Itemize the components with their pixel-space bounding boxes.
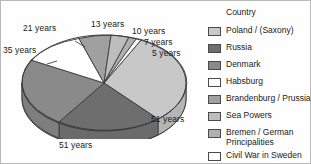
pie-label-51-years-poland: 51 years xyxy=(151,114,184,124)
pie-chart-area: 21 years 35 years 13 years 10 years 7 ye… xyxy=(1,1,206,164)
legend-label-denmark: Denmark xyxy=(226,60,260,70)
chart-frame: 21 years 35 years 13 years 10 years 7 ye… xyxy=(0,0,311,164)
legend-item-brandenburg-prussia[interactable]: Brandenburg / Prussia xyxy=(207,94,311,107)
legend-swatch-poland-saxony xyxy=(208,27,221,36)
legend-item-denmark[interactable]: Denmark xyxy=(207,60,311,73)
legend-label-russia: Russia xyxy=(226,43,252,53)
legend-title: Country xyxy=(226,7,256,17)
pie-label-35-years: 35 years xyxy=(3,45,36,55)
legend-swatch-denmark xyxy=(208,61,221,70)
legend-label-poland-saxony: Poland / (Saxony) xyxy=(226,26,294,36)
legend-label-habsburg: Habsburg xyxy=(226,77,263,87)
legend-swatch-bremen-german-principalities xyxy=(208,129,221,138)
legend-swatch-sea-powers xyxy=(208,112,221,121)
legend-label-bremen-german-principalities: Bremen / German Principalities xyxy=(226,128,294,147)
legend-swatch-russia xyxy=(208,44,221,53)
legend-label-civil-war-in-sweden: Civil War in Sweden xyxy=(226,151,302,161)
pie-label-21-years: 21 years xyxy=(23,23,56,33)
legend: Country Poland / (Saxony) Russia Denmark… xyxy=(206,1,311,164)
legend-item-sea-powers[interactable]: Sea Powers xyxy=(207,111,311,124)
legend-item-civil-war-in-sweden[interactable]: Civil War in Sweden xyxy=(207,151,311,164)
legend-item-russia[interactable]: Russia xyxy=(207,43,311,56)
pie-label-51-years-russia: 51 years xyxy=(59,140,92,150)
pie-label-13-years: 13 years xyxy=(91,19,124,29)
legend-swatch-habsburg xyxy=(208,78,221,87)
legend-items: Poland / (Saxony) Russia Denmark Habsbur… xyxy=(207,26,311,164)
pie-label-5-years: 5 years xyxy=(152,48,181,58)
legend-item-habsburg[interactable]: Habsburg xyxy=(207,77,311,90)
legend-swatch-civil-war-in-sweden xyxy=(208,152,221,161)
legend-item-poland-saxony[interactable]: Poland / (Saxony) xyxy=(207,26,311,39)
pie-label-10-years: 10 years xyxy=(132,26,165,36)
legend-label-brandenburg-prussia: Brandenburg / Prussia xyxy=(226,94,311,104)
legend-swatch-brandenburg-prussia xyxy=(208,95,221,104)
pie-label-7-years: 7 years xyxy=(144,37,173,47)
legend-label-sea-powers: Sea Powers xyxy=(226,111,272,121)
legend-item-bremen-german-principalities[interactable]: Bremen / German Principalities xyxy=(207,128,311,148)
